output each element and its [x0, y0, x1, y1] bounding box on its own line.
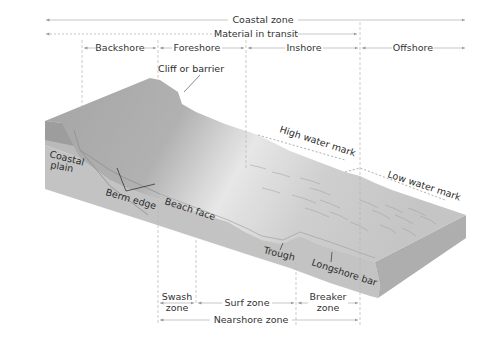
- zone-inshore-label: Inshore: [286, 42, 321, 53]
- coastal-zone-diagram: Coastal zone Material in transit Backsho…: [0, 0, 486, 342]
- material-in-transit-label: Material in transit: [214, 28, 298, 39]
- nearshore-zone-label: Nearshore zone: [214, 314, 289, 325]
- cliff-label: Cliff or barrier: [158, 63, 224, 74]
- zone-foreshore-label: Foreshore: [174, 42, 221, 53]
- swash-zone-label-2: zone: [166, 302, 189, 313]
- breaker-zone-label-1: Breaker: [310, 291, 347, 302]
- zone-backshore-label: Backshore: [95, 42, 145, 53]
- breaker-zone-label-2: zone: [317, 302, 340, 313]
- coastal-zone-label: Coastal zone: [232, 14, 293, 25]
- surf-zone-label: Surf zone: [225, 297, 270, 308]
- zone-offshore-label: Offshore: [393, 42, 434, 53]
- swash-zone-label-1: Swash: [162, 291, 193, 302]
